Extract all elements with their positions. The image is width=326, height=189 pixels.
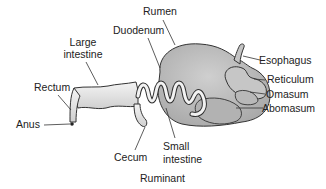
label-abomasum: Abomasum xyxy=(262,103,315,114)
label-reticulum: Reticulum xyxy=(267,74,314,85)
anus-point xyxy=(70,122,74,126)
label-small-intestine-line2: intestine xyxy=(163,154,202,165)
leader-rumen xyxy=(163,20,175,45)
label-cecum: Cecum xyxy=(114,152,147,163)
leader-large-intestine xyxy=(86,62,98,85)
label-small-intestine-line1: Small xyxy=(163,141,189,152)
label-duodenum: Duodenum xyxy=(113,25,164,36)
leader-esophagus xyxy=(243,56,260,60)
label-large-intestine-line1: Large xyxy=(63,37,103,48)
label-anus: Anus xyxy=(16,119,40,130)
label-omasum: Omasum xyxy=(266,89,309,100)
leader-rectum xyxy=(58,95,71,110)
label-rumen: Rumen xyxy=(143,6,177,17)
esophagus-shape xyxy=(234,44,244,64)
large-intestine-shape xyxy=(74,82,138,109)
leader-duodenum xyxy=(148,38,160,68)
label-large-intestine-line2: intestine xyxy=(58,49,108,60)
cecum-shape xyxy=(134,104,147,127)
leader-anus xyxy=(44,124,70,125)
label-rectum: Rectum xyxy=(34,82,70,93)
leader-cecum xyxy=(135,127,145,150)
diagram-caption: Ruminant xyxy=(140,173,185,184)
label-esophagus: Esophagus xyxy=(259,55,312,66)
